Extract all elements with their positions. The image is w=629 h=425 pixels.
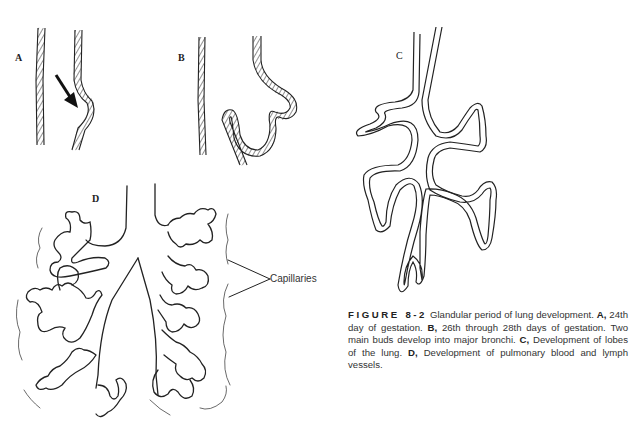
panel-d-drawing [16,184,270,417]
panel-d-label: D [92,193,99,204]
caption-key-a: A, [597,309,607,320]
caption-key-b: B, [428,322,438,333]
figure-number: FIGURE 8-2 [348,309,427,320]
figure-caption: FIGURE 8-2 Glandular period of lung deve… [348,309,628,372]
capillaries-label: Capillaries [270,273,317,284]
caption-title: Glandular period of lung development. [430,309,594,320]
panel-b-label: B [178,52,185,63]
panel-c-label: C [396,50,403,61]
panel-c-drawing [357,27,497,292]
caption-key-c: C, [520,334,530,345]
panel-b-drawing [198,36,297,165]
panel-a-label: A [15,52,22,63]
caption-key-d: D, [408,347,418,358]
